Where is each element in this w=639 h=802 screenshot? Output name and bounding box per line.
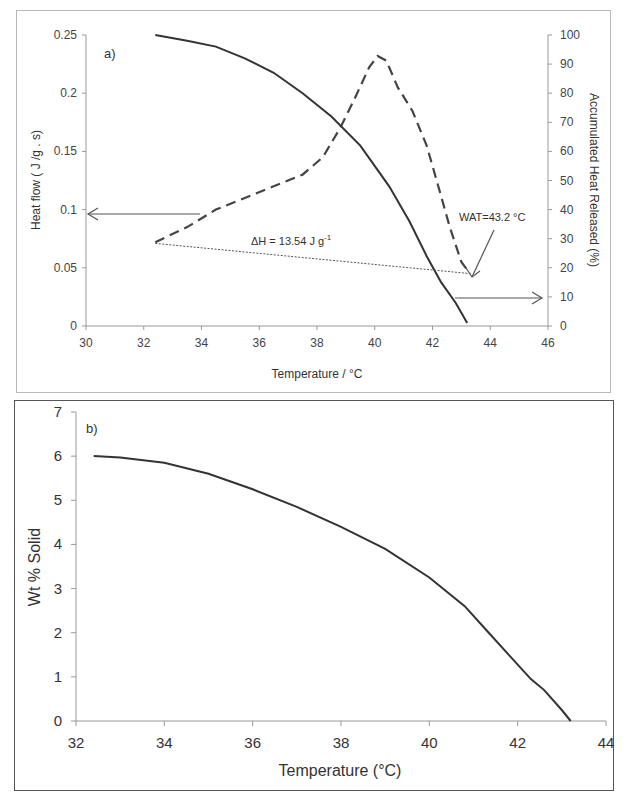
right-axis-arrow [455, 292, 542, 304]
x-tick-label: 44 [598, 734, 615, 751]
y2-tick-label: 10 [560, 290, 574, 304]
wat-label: WAT=43.2 °C [459, 211, 526, 223]
x-tick-label: 40 [368, 336, 382, 350]
left-axis-arrow [88, 208, 200, 220]
x-tick-label: 40 [421, 734, 438, 751]
y2-tick-label: 40 [560, 203, 574, 217]
y2-tick-label: 20 [560, 261, 574, 275]
x-tick-label: 32 [68, 734, 85, 751]
y-ticks-right: 0102030405060708090100 [548, 28, 580, 333]
chart-a: 00.050.10.150.20.25 01020304050607080901… [29, 28, 601, 381]
y-tick-label: 5 [54, 491, 62, 508]
x-ticks-b: 32343638404244 [68, 721, 615, 751]
wt-solid-curve [94, 456, 571, 721]
x-tick-label: 44 [484, 336, 498, 350]
y-tick-label: 1 [54, 668, 62, 685]
x-ticks: 303234363840424446 [79, 326, 555, 350]
y-tick-label: 0.1 [60, 203, 77, 217]
x-tick-label: 36 [244, 734, 261, 751]
y2-tick-label: 90 [560, 57, 574, 71]
wat-arrow [466, 230, 494, 277]
y2-axis-title-a: Accumulated Heat Released (%) [587, 93, 601, 267]
y2-tick-label: 60 [560, 144, 574, 158]
x-tick-label: 36 [253, 336, 267, 350]
x-tick-label: 42 [509, 734, 526, 751]
y-tick-label: 0 [54, 712, 62, 729]
y-tick-label: 6 [54, 447, 62, 464]
accumulated-heat-curve [155, 35, 467, 323]
x-tick-label: 30 [79, 336, 93, 350]
y-tick-label: 0 [70, 319, 77, 333]
x-tick-label: 38 [333, 734, 350, 751]
y-axis-title-b: Wt % Solid [26, 528, 43, 606]
x-tick-label: 32 [137, 336, 151, 350]
y2-tick-label: 30 [560, 232, 574, 246]
x-tick-label: 46 [541, 336, 555, 350]
y-tick-label: 4 [54, 535, 62, 552]
panel-label-a: a) [104, 46, 116, 61]
chart-b: 01234567 32343638404244 b) Temperature (… [26, 403, 614, 779]
x-tick-label: 38 [310, 336, 324, 350]
y-tick-label: 0.2 [60, 86, 77, 100]
y2-tick-label: 50 [560, 174, 574, 188]
y2-tick-label: 70 [560, 115, 574, 129]
x-tick-label: 34 [156, 734, 173, 751]
chart-canvas: 00.050.10.150.20.25 01020304050607080901… [0, 0, 639, 802]
y-axis-title-a: Heat flow ( J /g . s) [29, 130, 43, 230]
y-tick-label: 0.15 [54, 144, 78, 158]
y-tick-label: 0.05 [54, 261, 78, 275]
y-ticks-b: 01234567 [54, 403, 76, 729]
y2-tick-label: 80 [560, 86, 574, 100]
x-axis-title-b: Temperature (°C) [279, 762, 402, 779]
y2-tick-label: 100 [560, 28, 580, 42]
panel-label-b: b) [86, 421, 98, 436]
x-tick-label: 42 [426, 336, 440, 350]
y-tick-label: 0.25 [54, 28, 78, 42]
x-tick-label: 34 [195, 336, 209, 350]
delta-h-label: ΔH = 13.54 J g-1 [251, 233, 332, 247]
y-tick-label: 3 [54, 580, 62, 597]
y2-tick-label: 0 [560, 319, 567, 333]
x-axis-title-a: Temperature / °C [272, 367, 363, 381]
y-ticks-left: 00.050.10.150.20.25 [54, 28, 86, 333]
y-tick-label: 7 [54, 403, 62, 420]
y-tick-label: 2 [54, 624, 62, 641]
